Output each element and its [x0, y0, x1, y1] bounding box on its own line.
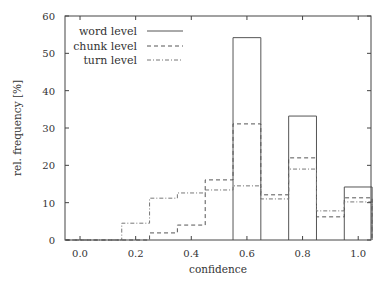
y-tick-label: 40: [42, 86, 55, 97]
legend-label-word: word level: [79, 25, 138, 38]
x-tick-label: 1.0: [350, 248, 366, 259]
y-tick-label: 20: [42, 160, 55, 171]
series-chunk-level: [66, 124, 372, 240]
x-axis-title: confidence: [189, 263, 247, 275]
y-tick-label: 60: [42, 11, 55, 22]
y-axis-title: rel. frequency [%]: [11, 80, 23, 176]
legend: word level chunk level turn level: [73, 25, 183, 67]
legend-label-chunk: chunk level: [73, 40, 137, 53]
y-tick-label: 30: [42, 123, 55, 134]
x-tick-label: 0.8: [295, 248, 311, 259]
y-tick-label: 0: [49, 235, 55, 246]
series-layer: [66, 38, 372, 240]
histogram-chart: 0.00.20.40.60.81.00102030405060 confiden…: [0, 0, 384, 291]
legend-label-turn: turn level: [83, 54, 137, 67]
x-tick-label: 0.2: [128, 248, 144, 259]
y-tick-label: 10: [42, 198, 55, 209]
series-word-level: [233, 38, 372, 240]
y-tick-label: 50: [42, 48, 55, 59]
x-tick-label: 0.0: [72, 248, 88, 259]
x-tick-label: 0.4: [183, 248, 199, 259]
x-tick-label: 0.6: [239, 248, 255, 259]
